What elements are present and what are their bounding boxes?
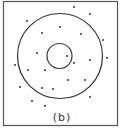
- dot: [89, 59, 91, 61]
- inner-circle: [47, 44, 72, 69]
- dot: [66, 55, 68, 57]
- dot: [73, 62, 75, 64]
- dot: [84, 79, 86, 81]
- dot: [44, 105, 46, 107]
- dot: [67, 79, 69, 81]
- dot: [36, 52, 38, 54]
- figure-frame: [4, 2, 118, 126]
- dot: [41, 87, 43, 89]
- dot: [14, 64, 16, 66]
- dot: [26, 20, 28, 22]
- dot: [41, 32, 43, 34]
- dot: [73, 6, 75, 8]
- dot: [31, 100, 33, 102]
- dot: [59, 26, 61, 28]
- dot: [89, 13, 91, 15]
- dot: [27, 69, 29, 71]
- scatter-dots: [14, 6, 108, 107]
- dot: [19, 86, 21, 88]
- dot: [89, 96, 91, 98]
- dot: [52, 88, 54, 90]
- dot: [102, 39, 104, 41]
- dot: [106, 57, 108, 59]
- dot: [80, 33, 82, 35]
- dot: [44, 69, 46, 71]
- figure-label: (b): [0, 111, 124, 124]
